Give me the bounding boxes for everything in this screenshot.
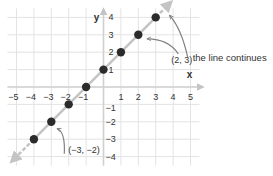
callout-arrow bbox=[57, 129, 64, 154]
data-point bbox=[117, 48, 125, 56]
data-series bbox=[13, 3, 170, 160]
annotation-text: the line continues bbox=[193, 52, 267, 63]
y-tick-label: −2 bbox=[106, 117, 116, 127]
data-point bbox=[47, 118, 55, 126]
y-tick-label: 2 bbox=[109, 47, 114, 57]
x-axis-label: x bbox=[187, 69, 193, 80]
y-axis-label: y bbox=[94, 12, 100, 23]
y-tick-label: 4 bbox=[109, 12, 114, 22]
y-tick-label: −3 bbox=[106, 134, 116, 144]
x-tick-label: 1 bbox=[118, 92, 123, 102]
y-tick-label: −1 bbox=[106, 103, 116, 113]
data-point bbox=[82, 83, 90, 91]
callout-arrow bbox=[170, 15, 188, 57]
x-tick-label: −3 bbox=[43, 92, 53, 102]
x-tick-label: 3 bbox=[153, 92, 158, 102]
x-tick-label: 4 bbox=[171, 92, 176, 102]
callout-arrow bbox=[147, 39, 178, 54]
data-point bbox=[134, 31, 142, 39]
x-tick-label: −5 bbox=[8, 92, 18, 102]
x-tick-label: −4 bbox=[26, 92, 36, 102]
point-label: (2, 3) bbox=[171, 55, 192, 65]
x-tick-label: 2 bbox=[136, 92, 141, 102]
data-point bbox=[65, 100, 73, 108]
x-tick-label: 5 bbox=[188, 92, 193, 102]
line-graph: xy −5−4−3−2−112345−4−3−2−11234 (2, 3)(−3… bbox=[0, 0, 273, 176]
data-point bbox=[30, 135, 38, 143]
data-point bbox=[152, 13, 160, 21]
point-label: (−3, −2) bbox=[68, 145, 100, 155]
data-point bbox=[99, 65, 107, 73]
y-tick-label: −4 bbox=[106, 152, 116, 162]
y-tick-label: 3 bbox=[109, 30, 114, 40]
y-tick-label: 1 bbox=[109, 65, 114, 75]
